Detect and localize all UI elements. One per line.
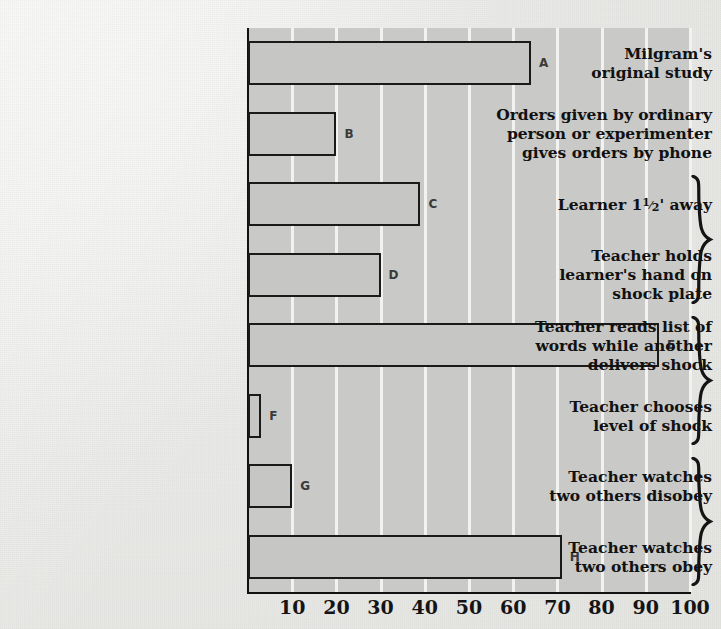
- category-label-1: Milgram'soriginal study: [475, 44, 721, 82]
- category-label-line: Teacher watches: [475, 538, 712, 557]
- gridline-30: [380, 28, 383, 592]
- brace-group-influence: [688, 457, 718, 586]
- bar-b: [248, 112, 336, 156]
- x-axis-line: [247, 592, 691, 594]
- bar-f: [248, 394, 261, 438]
- category-label-line: delivers shock: [475, 355, 712, 374]
- x-tick-label-20: 20: [323, 596, 349, 618]
- brace-shared-responsibility: [688, 316, 718, 445]
- x-tick-label-50: 50: [456, 596, 482, 618]
- fraction-one-half: 1⁄2: [642, 200, 659, 211]
- category-label-8: Teacher watchestwo others obey: [475, 538, 721, 576]
- category-label-7: Teacher watchestwo others disobey: [475, 467, 721, 505]
- x-tick-label-90: 90: [633, 596, 659, 618]
- category-label-line: original study: [475, 63, 712, 82]
- category-label-line: Orders given by ordinary: [475, 105, 712, 124]
- bar-d: [248, 253, 381, 297]
- bar-g: [248, 464, 292, 508]
- category-label-line: Learner 11⁄2' away: [475, 195, 712, 214]
- x-tick-label-30: 30: [367, 596, 393, 618]
- category-label-2: Orders given by ordinaryperson or experi…: [475, 105, 721, 162]
- category-label-line: two others disobey: [475, 486, 712, 505]
- bar-letter-f: F: [269, 409, 278, 423]
- category-label-line: gives orders by phone: [475, 143, 712, 162]
- x-tick-label-100: 100: [670, 596, 710, 618]
- x-tick-label-60: 60: [500, 596, 526, 618]
- category-label-line: person or experimenter: [475, 124, 712, 143]
- milgram-obedience-bar-chart: ABCDEFGH Milgram'soriginal studyOrders g…: [0, 0, 721, 629]
- bar-c: [248, 182, 420, 226]
- category-label-line: Teacher watches: [475, 467, 712, 486]
- x-tick-label-80: 80: [588, 596, 614, 618]
- category-label-line: Teacher chooses: [475, 397, 712, 416]
- category-label-line: shock plate: [475, 284, 712, 303]
- category-label-5: Teacher reads list ofwords while another…: [475, 317, 721, 374]
- x-tick-label-70: 70: [544, 596, 570, 618]
- brace-learner-proximity: [688, 175, 718, 304]
- gridline-40: [424, 28, 427, 592]
- x-tick-label-40: 40: [412, 596, 438, 618]
- category-label-line: level of shock: [475, 416, 712, 435]
- bar-letter-b: B: [344, 127, 354, 141]
- category-label-6: Teacher chooseslevel of shock: [475, 397, 721, 435]
- category-label-4: Teacher holdslearner's hand onshock plat…: [475, 246, 721, 303]
- category-label-line: Teacher reads list of: [475, 317, 712, 336]
- gridline-50: [468, 28, 471, 592]
- x-tick-label-10: 10: [279, 596, 305, 618]
- category-label-line: Milgram's: [475, 44, 712, 63]
- bar-letter-d: D: [389, 268, 399, 282]
- bar-letter-c: C: [428, 197, 437, 211]
- category-label-line: Teacher holds: [475, 246, 712, 265]
- category-label-line: two others obey: [475, 557, 712, 576]
- bar-letter-g: G: [300, 479, 310, 493]
- category-label-line: learner's hand on: [475, 265, 712, 284]
- category-label-3: Learner 11⁄2' away: [475, 195, 721, 214]
- category-label-line: words while another: [475, 336, 712, 355]
